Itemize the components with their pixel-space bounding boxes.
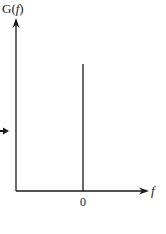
x-axis-label: f — [151, 183, 157, 198]
y-axis — [13, 18, 20, 191]
origin-tick-label: 0 — [80, 195, 86, 209]
y-axis-label: G(f) — [2, 1, 24, 16]
spectrum-diagram: G(f) f 0 — [0, 0, 166, 234]
left-arrow-fragment — [0, 128, 9, 135]
